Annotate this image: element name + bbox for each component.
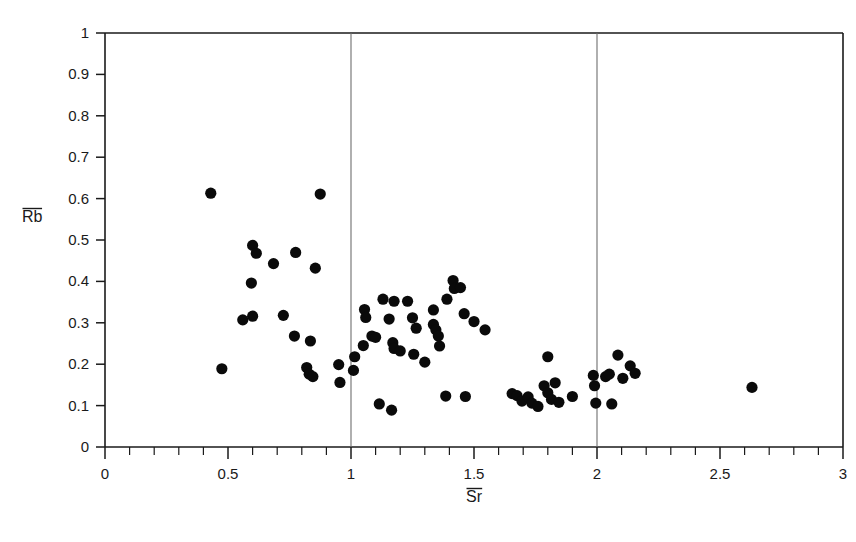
data-point-12: [305, 335, 316, 346]
data-point-3: [251, 248, 262, 259]
data-point-26: [411, 323, 422, 334]
y-tick-label-2: 0.2: [68, 355, 89, 372]
y-tick-label-10: 1: [81, 24, 89, 41]
x-tick-label-2: 1: [347, 465, 355, 482]
data-point-17: [333, 359, 344, 370]
data-point-45: [358, 340, 369, 351]
data-point-16: [216, 363, 227, 374]
data-point-70: [604, 369, 615, 380]
data-point-24: [402, 296, 413, 307]
data-point-76: [746, 382, 757, 393]
x-tick-label-6: 3: [839, 465, 847, 482]
data-point-41: [433, 330, 444, 341]
data-point-47: [348, 365, 359, 376]
data-point-25: [407, 312, 418, 323]
data-point-64: [542, 351, 553, 362]
data-point-15: [307, 371, 318, 382]
y-axis-title: Rb: [22, 208, 43, 225]
data-point-44: [408, 349, 419, 360]
data-point-0: [205, 188, 216, 199]
data-point-43: [395, 345, 406, 356]
x-axis-title: Sr: [466, 488, 483, 505]
data-point-63: [553, 397, 564, 408]
data-point-28: [441, 294, 452, 305]
data-point-58: [532, 401, 543, 412]
x-tick-label-5: 2.5: [710, 465, 731, 482]
x-tick-label-4: 2: [593, 465, 601, 482]
data-point-9: [247, 311, 258, 322]
data-point-6: [310, 263, 321, 274]
data-point-68: [590, 398, 601, 409]
data-point-75: [630, 368, 641, 379]
data-point-62: [550, 377, 561, 388]
data-point-46: [349, 351, 360, 362]
data-point-8: [237, 314, 248, 325]
data-point-34: [479, 324, 490, 335]
data-point-20: [360, 312, 371, 323]
y-tick-label-8: 0.8: [68, 107, 89, 124]
data-point-50: [460, 391, 471, 402]
y-tick-label-7: 0.7: [68, 148, 89, 165]
data-point-49: [440, 390, 451, 401]
data-point-36: [370, 332, 381, 343]
data-point-51: [374, 398, 385, 409]
x-tick-label-0: 0: [101, 465, 109, 482]
y-tick-label-0: 0: [81, 438, 89, 455]
data-point-67: [589, 380, 600, 391]
y-tick-label-3: 0.3: [68, 314, 89, 331]
data-point-32: [459, 308, 470, 319]
scatter-plot-figure: 00.10.20.30.40.50.60.70.80.9100.511.522.…: [0, 0, 856, 542]
data-point-21: [377, 294, 388, 305]
y-tick-label-9: 0.9: [68, 65, 89, 82]
plot-canvas: 00.10.20.30.40.50.60.70.80.9100.511.522.…: [0, 0, 856, 542]
figure-caption: [0, 523, 856, 537]
y-tick-label-4: 0.4: [68, 272, 89, 289]
data-point-31: [455, 282, 466, 293]
data-point-18: [334, 377, 345, 388]
data-point-33: [468, 316, 479, 327]
data-point-7: [246, 277, 257, 288]
data-point-1: [315, 188, 326, 199]
data-point-73: [617, 373, 628, 384]
x-tick-label-1: 0.5: [218, 465, 239, 482]
data-point-72: [612, 349, 623, 360]
data-point-65: [567, 391, 578, 402]
data-point-22: [388, 296, 399, 307]
data-point-11: [289, 330, 300, 341]
data-point-66: [588, 370, 599, 381]
x-tick-label-3: 1.5: [464, 465, 485, 482]
data-point-5: [268, 258, 279, 269]
y-tick-label-5: 0.5: [68, 231, 89, 248]
y-tick-label-1: 0.1: [68, 397, 89, 414]
data-point-71: [606, 398, 617, 409]
y-tick-label-6: 0.6: [68, 190, 89, 207]
data-point-4: [290, 247, 301, 258]
data-point-23: [384, 313, 395, 324]
data-point-27: [428, 304, 439, 315]
data-point-10: [278, 310, 289, 321]
data-point-42: [434, 340, 445, 351]
data-point-52: [386, 405, 397, 416]
data-point-48: [419, 357, 430, 368]
